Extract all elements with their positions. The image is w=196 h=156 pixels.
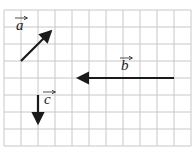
vector-b-label: b <box>121 57 129 73</box>
vector-grid-diagram: a b c <box>0 0 196 156</box>
vector-c: c <box>38 91 55 123</box>
vector-a-arrow <box>21 31 51 61</box>
vector-a-label: a <box>16 17 24 33</box>
vector-a: a <box>15 17 51 61</box>
vector-b: b <box>78 57 174 78</box>
vector-c-label: c <box>44 91 51 107</box>
